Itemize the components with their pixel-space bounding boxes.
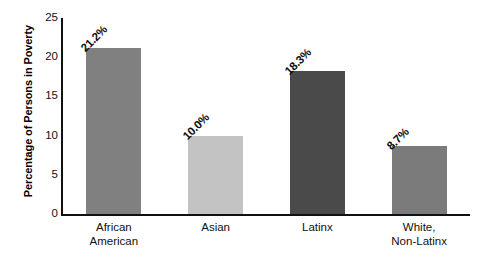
y-axis-tick-labels: 0510152025 xyxy=(20,0,58,265)
bar-fill xyxy=(290,71,345,214)
y-tick-label: 25 xyxy=(30,12,58,24)
y-tick-label: 0 xyxy=(30,208,58,220)
x-category-label: White, Non-Latinx xyxy=(368,220,470,248)
bar-fill xyxy=(188,136,243,214)
bar-fill xyxy=(392,146,447,214)
y-tick-label: 20 xyxy=(30,51,58,63)
bar[interactable] xyxy=(86,48,141,214)
bar[interactable] xyxy=(290,71,345,214)
bar[interactable] xyxy=(188,136,243,214)
y-tick-label: 15 xyxy=(30,90,58,102)
y-tick-label: 10 xyxy=(30,130,58,142)
y-tick-label: 5 xyxy=(30,169,58,181)
bar[interactable] xyxy=(392,146,447,214)
bar-chart: Percentage of Persons in Poverty 0510152… xyxy=(0,0,483,265)
bar-fill xyxy=(86,48,141,214)
x-category-label: Asian xyxy=(165,220,267,234)
x-category-label: African American xyxy=(63,220,165,248)
x-category-label: Latinx xyxy=(267,220,369,234)
x-axis-line xyxy=(61,214,470,216)
plot-area: 21.2%10.0%18.3%8.7% xyxy=(63,18,470,214)
